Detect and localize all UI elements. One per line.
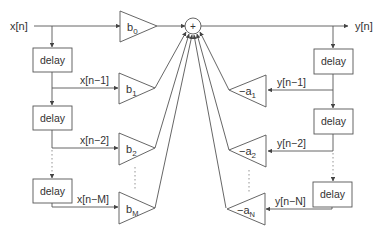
delay-label: delay [40, 185, 66, 197]
fb-line-a2 [197, 34, 229, 150]
input-label: x[n] [10, 20, 28, 32]
filter-block-diagram: x[n] delay x[n−1] delay x[n−2] delay x[n… [0, 0, 387, 238]
delay-label: delay [321, 115, 347, 127]
signal-y-n-1: y[n−1] [277, 76, 306, 88]
gain-b0 [120, 11, 157, 42]
delay-label: delay [40, 112, 66, 124]
signal-y-n-N: y[n−N] [275, 195, 306, 207]
sum-symbol: + [190, 21, 196, 32]
delay-label: delay [320, 188, 346, 200]
gain-b2 [119, 133, 155, 165]
output-label: y[n] [355, 20, 373, 32]
delay-label: delay [321, 55, 347, 67]
signal-x-n-2: x[n−2] [80, 134, 109, 146]
signal-x-n-M: x[n−M] [77, 193, 109, 205]
gain-bM [119, 192, 155, 224]
ff-line-b2 [155, 34, 189, 148]
gain-b1 [119, 73, 155, 104]
signal-x-n-1: x[n−1] [80, 74, 109, 86]
ff-line-bM [155, 35, 192, 208]
delay-label: delay [40, 54, 66, 66]
signal-y-n-2: y[n−2] [277, 137, 306, 149]
